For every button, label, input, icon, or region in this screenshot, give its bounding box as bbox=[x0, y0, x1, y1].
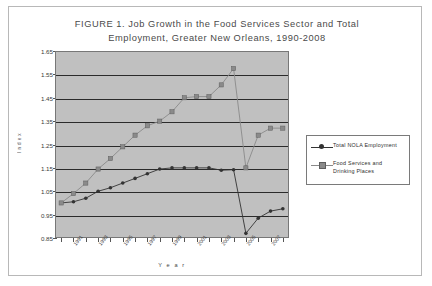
data-point bbox=[268, 126, 272, 130]
data-point bbox=[170, 110, 174, 114]
data-point bbox=[170, 166, 174, 170]
x-tick-mark bbox=[234, 238, 235, 242]
legend-item: Food Services and Drinking Places bbox=[311, 160, 382, 175]
y-tick-label: 1.35 bbox=[41, 118, 53, 125]
y-tick-label: 1.55 bbox=[41, 71, 53, 78]
data-point bbox=[146, 172, 150, 176]
x-tick-mark bbox=[135, 238, 136, 242]
data-point bbox=[72, 200, 76, 204]
y-tick-label: 1.25 bbox=[41, 141, 53, 148]
data-point bbox=[281, 126, 285, 130]
x-tick-mark bbox=[258, 238, 259, 242]
data-point bbox=[109, 186, 113, 190]
series-line-1 bbox=[61, 69, 283, 203]
data-point bbox=[183, 166, 187, 170]
data-point bbox=[96, 189, 100, 193]
data-point bbox=[182, 96, 186, 100]
data-point bbox=[84, 196, 88, 200]
legend-item: Total NOLA Employment bbox=[311, 142, 397, 151]
data-point bbox=[195, 94, 199, 98]
data-point bbox=[219, 83, 223, 87]
x-axis-title: Y e a r bbox=[55, 262, 289, 268]
figure-frame: FIGURE 1. Job Growth in the Food Service… bbox=[8, 6, 422, 276]
data-point bbox=[158, 119, 162, 123]
legend-label: Food Services and Drinking Places bbox=[333, 160, 382, 175]
series-line-0 bbox=[61, 168, 283, 233]
data-point bbox=[281, 207, 285, 211]
y-tick-label: 0.85 bbox=[41, 235, 53, 242]
x-axis-ticks: 199119931995199719992001200320052007 bbox=[55, 238, 289, 246]
x-tick-mark bbox=[209, 238, 210, 242]
data-point bbox=[121, 181, 125, 185]
data-point bbox=[59, 201, 63, 205]
y-axis-title: I n d e x bbox=[17, 133, 22, 153]
y-tick-label: 1.65 bbox=[41, 48, 53, 55]
gray-square-marker bbox=[311, 161, 333, 169]
x-tick-mark bbox=[110, 238, 111, 242]
y-tick-label: 0.95 bbox=[41, 211, 53, 218]
chart-legend: Total NOLA EmploymentFood Services and D… bbox=[306, 135, 410, 185]
data-point bbox=[71, 191, 75, 195]
data-point bbox=[133, 133, 137, 137]
series-lines bbox=[55, 51, 289, 238]
data-point bbox=[195, 166, 199, 170]
x-tick-mark bbox=[61, 238, 62, 242]
data-point bbox=[256, 216, 260, 220]
x-tick-mark bbox=[160, 238, 161, 242]
x-tick-mark bbox=[86, 238, 87, 242]
legend-label: Total NOLA Employment bbox=[333, 142, 397, 150]
data-point bbox=[207, 94, 211, 98]
data-point bbox=[256, 133, 260, 137]
data-point bbox=[244, 232, 248, 236]
data-point bbox=[84, 181, 88, 185]
y-axis-tick-labels: 0.850.951.051.151.251.351.451.551.65 bbox=[23, 51, 53, 238]
x-tick-mark bbox=[283, 238, 284, 242]
y-tick-label: 1.15 bbox=[41, 164, 53, 171]
data-point bbox=[108, 156, 112, 160]
y-tick-label: 1.05 bbox=[41, 188, 53, 195]
data-point bbox=[231, 66, 235, 70]
data-point bbox=[145, 124, 149, 128]
data-point bbox=[96, 167, 100, 171]
x-tick-mark bbox=[184, 238, 185, 242]
data-point bbox=[269, 209, 273, 213]
data-point bbox=[121, 145, 125, 149]
data-point bbox=[219, 168, 223, 172]
data-point bbox=[158, 167, 162, 171]
data-point bbox=[207, 166, 211, 170]
black-diamond-marker bbox=[311, 143, 333, 151]
data-point bbox=[244, 166, 248, 170]
y-tick-label: 1.45 bbox=[41, 94, 53, 101]
data-point bbox=[133, 177, 137, 181]
data-point bbox=[232, 168, 236, 172]
